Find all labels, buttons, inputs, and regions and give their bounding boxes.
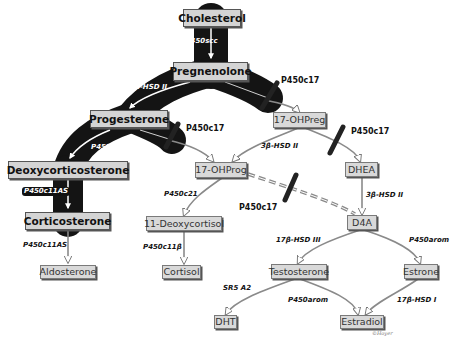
node-pregnenolone: Pregnenolone <box>173 62 248 81</box>
blocked-label-p450c17-ohpreg: P450c17 <box>351 127 389 136</box>
node-progesterone: Progesterone <box>90 110 168 128</box>
node-11-deoxycortisol: 11-Deoxycortisol <box>146 216 222 231</box>
enzyme-label-p450c11b: P450c11β <box>143 244 182 251</box>
node-estradiol: Estradiol <box>340 315 384 329</box>
enzyme-label-3bhsd2-ohpreg: 3β-HSD II <box>261 143 298 150</box>
node-testosterone: Testosterone <box>271 264 327 279</box>
enzyme-label-star-p450scc: StAR, P450scc <box>161 38 218 45</box>
enzyme-label-p450c11as-aldo: P450c11AS <box>23 242 67 249</box>
node-dhea: DHEA <box>345 162 378 177</box>
enzyme-label-17bhsd3: 17β-HSD III <box>276 237 321 244</box>
node-cholesterol: Cholesterol <box>183 9 241 27</box>
blocked-label-p450c17-ohprog: P450c17 <box>239 203 277 212</box>
node-17-ohprog: 17-OHProg <box>195 162 247 178</box>
enzyme-label-p450c21: P450c21 <box>91 144 125 151</box>
node-d4a: D4A <box>347 215 377 230</box>
node-17-ohpreg: 17-OHPreg <box>273 112 326 128</box>
enzyme-label-p450c21-ohprog: P450c21 <box>164 191 198 198</box>
steroidogenesis-diagram: Cholesterol Pregnenolone Progesterone De… <box>0 0 454 343</box>
enzyme-label-p450arom-d4a: P450arom <box>409 237 449 244</box>
enzyme-label-17bhsd1: 17β-HSD I <box>397 297 436 304</box>
enzyme-label-3bhsd2-dhea: 3β-HSD II <box>366 192 403 199</box>
enzyme-label-p450arom-testo: P450arom <box>288 297 328 304</box>
enzyme-label-3bhsd2: 3β-HSD II <box>130 84 167 91</box>
node-corticosterone: Corticosterone <box>25 212 110 230</box>
enzyme-label-p450c11as: P450c11AS <box>22 187 70 196</box>
blocked-label-p450c17-prog: P450c17 <box>186 124 224 133</box>
node-cortisol: Cortisol <box>162 265 201 279</box>
artist-signature: ©Hoyer <box>372 330 393 336</box>
blocked-label-p450c17-preg: P450c17 <box>281 76 319 85</box>
node-deoxycorticosterone: Deoxycorticosterone <box>8 161 128 179</box>
node-estrone: Estrone <box>404 264 438 279</box>
node-dht: DHT <box>214 315 237 329</box>
node-aldosterone: Aldosterone <box>40 265 96 279</box>
enzyme-label-sr5a2: SR5 A2 <box>223 285 251 292</box>
